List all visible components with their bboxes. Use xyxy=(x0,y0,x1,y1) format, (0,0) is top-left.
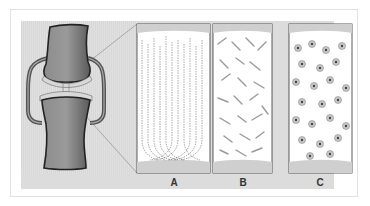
lower-bone xyxy=(42,97,90,170)
panel-a-label: A xyxy=(164,177,184,188)
panel-c-label: C xyxy=(310,177,330,188)
joint-diagram xyxy=(0,0,370,206)
panel-b-tissue xyxy=(213,24,272,173)
panel-b-label: B xyxy=(233,177,253,188)
upper-bone xyxy=(44,25,90,83)
panel-a-tissue xyxy=(137,24,210,173)
panel-c-tissue xyxy=(289,24,352,173)
